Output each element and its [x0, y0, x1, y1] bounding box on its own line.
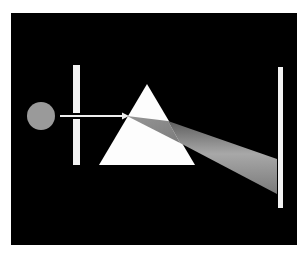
prism-diagram: [0, 0, 303, 254]
light-source-icon: [27, 102, 55, 130]
slit-barrier-bottom: [73, 119, 80, 165]
slit-barrier-top: [73, 65, 80, 113]
projection-screen: [278, 67, 283, 208]
